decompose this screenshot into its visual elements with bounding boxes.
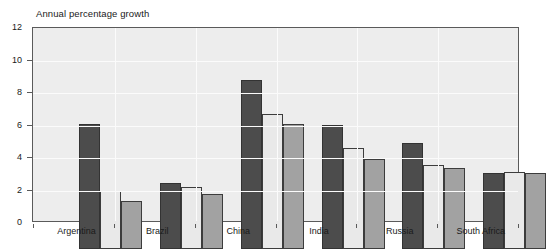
chart-title: Annual percentage growth xyxy=(36,8,149,19)
bars-layer xyxy=(66,56,550,249)
x-tick-mark xyxy=(114,224,115,228)
y-tick-label: 4 xyxy=(17,152,22,162)
y-tick-label: 8 xyxy=(17,87,22,97)
x-tick-label-india: India xyxy=(309,226,329,236)
x-tick-mark xyxy=(356,224,357,228)
y-tick-label: 6 xyxy=(17,120,22,130)
y-tick-label: 12 xyxy=(12,22,22,32)
bar-south-africa-series-3 xyxy=(525,173,546,249)
x-tick-mark xyxy=(437,224,438,228)
y-tick-label: 10 xyxy=(12,55,22,65)
y-axis: 024681012 xyxy=(0,27,28,222)
x-tick-label-brazil: Brazil xyxy=(146,226,169,236)
gridline-vertical xyxy=(196,28,197,221)
x-tick-label-south-africa: South Africa xyxy=(456,226,505,236)
gridline-vertical xyxy=(438,28,439,221)
x-tick-mark xyxy=(195,224,196,228)
gridline-horizontal xyxy=(33,126,518,127)
x-tick-mark xyxy=(518,224,519,228)
x-tick-label-argentina: Argentina xyxy=(57,226,96,236)
gridline-horizontal xyxy=(33,158,518,159)
plot-area xyxy=(32,27,519,222)
gridline-horizontal xyxy=(33,61,518,62)
gridline-horizontal xyxy=(33,93,518,94)
gridline-vertical xyxy=(115,28,116,221)
gridline-horizontal xyxy=(33,191,518,192)
x-tick-mark xyxy=(33,224,34,228)
y-tick-label: 2 xyxy=(17,185,22,195)
x-tick-mark xyxy=(276,224,277,228)
x-axis: ArgentinaBrazilChinaIndiaRussiaSouth Afr… xyxy=(32,224,519,244)
gridline-vertical xyxy=(277,28,278,221)
x-tick-label-russia: Russia xyxy=(386,226,414,236)
gridline-vertical xyxy=(357,28,358,221)
y-tick-label: 0 xyxy=(17,217,22,227)
x-tick-label-china: China xyxy=(226,226,250,236)
